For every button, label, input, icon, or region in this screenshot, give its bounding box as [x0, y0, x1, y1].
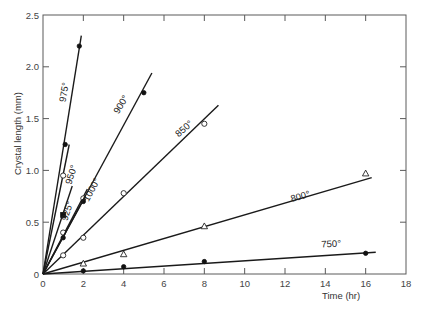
y-tick-label: 2.0: [26, 61, 39, 72]
filled-circle-marker: [63, 142, 67, 146]
y-tick-label: 1.0: [26, 165, 39, 176]
open-circle-marker: [121, 191, 126, 196]
x-tick-label: 14: [320, 278, 331, 289]
x-tick-label: 4: [121, 278, 126, 289]
x-tick-label: 2: [81, 278, 86, 289]
axes-frame: [43, 15, 406, 274]
series-750-: [43, 251, 376, 274]
x-tick-label: 6: [161, 278, 166, 289]
y-axis-title: Crystal length (mm): [12, 92, 23, 175]
crystal-growth-chart: 02468101214161800.51.01.52.02.5 975°950°…: [0, 0, 424, 311]
x-tick-label: 16: [360, 278, 371, 289]
series-label: 975°: [57, 81, 71, 102]
x-tick-label: 0: [40, 278, 45, 289]
filled-circle-marker: [77, 44, 81, 48]
series-label: 850°: [173, 118, 195, 139]
open-circle-marker: [61, 253, 66, 258]
y-tick-label: 2.5: [26, 10, 39, 21]
x-axis-title: Time (hr): [322, 290, 360, 301]
y-tick-label: 0: [34, 269, 39, 280]
x-tick-label: 18: [401, 278, 412, 289]
filled-circle-marker: [81, 269, 85, 273]
open-circle-marker: [202, 121, 207, 126]
series-label: 800°: [289, 188, 311, 204]
open-triangle-marker: [362, 170, 368, 176]
y-tick-label: 1.5: [26, 113, 39, 124]
open-triangle-marker: [120, 251, 126, 257]
plot-frame: [43, 15, 406, 274]
x-tick-label: 12: [280, 278, 291, 289]
y-tick-label: 0.5: [26, 217, 39, 228]
axis-ticks: 02468101214161800.51.01.52.02.5: [26, 10, 412, 290]
filled-circle-marker: [142, 91, 146, 95]
fit-line: [43, 252, 376, 274]
filled-circle-marker: [363, 251, 367, 255]
series-label: 750°: [321, 238, 341, 250]
open-circle-marker: [81, 235, 86, 240]
filled-circle-marker: [121, 265, 125, 269]
series-label: 900°: [111, 93, 131, 116]
x-tick-label: 8: [202, 278, 207, 289]
series-labels: 975°950°925°1000°900°850°800°750°: [57, 81, 342, 249]
filled-circle-marker: [202, 259, 206, 263]
series-label: 1000°: [81, 176, 103, 203]
x-tick-label: 10: [239, 278, 250, 289]
